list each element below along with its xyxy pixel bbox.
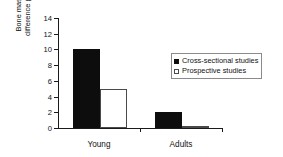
y-axis-title: Bone mass difference (%) xyxy=(14,0,36,56)
legend-label-prospective-studies: Prospective studies xyxy=(182,66,246,76)
y-axis-tick xyxy=(54,18,58,19)
legend-swatch-open-square-icon xyxy=(174,69,179,74)
y-axis-title-line-1: Bone mass xyxy=(14,0,23,56)
legend-swatch-filled-square-icon xyxy=(174,59,179,64)
bar-adults-prospective xyxy=(182,126,209,128)
y-axis-tick-label: 0 xyxy=(48,124,52,133)
y-axis-tick xyxy=(54,65,58,66)
legend-item-cross-sectional-studies: Cross-sectional studies xyxy=(174,56,258,66)
y-axis-tick xyxy=(54,49,58,50)
x-axis-tick xyxy=(222,128,223,132)
y-axis-tick xyxy=(54,128,58,129)
y-axis-tick xyxy=(54,81,58,82)
x-axis-tick xyxy=(140,128,141,132)
y-axis-tick xyxy=(54,34,58,35)
y-axis-tick xyxy=(54,97,58,98)
y-axis-tick-label: 2 xyxy=(48,108,52,117)
y-axis-tick-label: 8 xyxy=(48,61,52,70)
y-axis-tick-label: 14 xyxy=(44,14,52,23)
y-axis-tick-label: 4 xyxy=(48,92,52,101)
x-axis-category-label-young: Young xyxy=(88,140,111,149)
bar-adults-cross-sectional xyxy=(155,112,182,128)
bar-chart-figure: Bone mass difference (%) 02468101214 You… xyxy=(0,0,283,157)
legend-label-cross-sectional-studies: Cross-sectional studies xyxy=(182,56,258,66)
y-axis-tick-label: 10 xyxy=(44,45,52,54)
y-axis-tick xyxy=(54,112,58,113)
x-axis-category-label-adults: Adults xyxy=(170,140,193,149)
legend-item-prospective-studies: Prospective studies xyxy=(174,66,258,76)
y-axis-tick-label: 12 xyxy=(44,29,52,38)
bar-young-cross-sectional xyxy=(73,49,100,128)
chart-legend: Cross-sectional studies Prospective stud… xyxy=(171,53,262,79)
y-axis-tick-label: 6 xyxy=(48,76,52,85)
y-axis-title-line-2: difference (%) xyxy=(23,0,32,56)
bar-young-prospective xyxy=(100,89,127,128)
